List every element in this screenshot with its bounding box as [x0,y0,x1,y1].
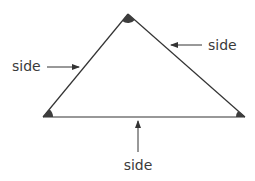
right-side-label: side [208,37,237,53]
triangle-left-side [43,14,128,117]
triangle-diagram: side side side [0,0,255,181]
left-side-label: side [12,58,41,74]
triangle-right-side [128,14,245,117]
bottom-side-label: side [124,157,153,173]
bottom-right-angle-marker [236,111,245,117]
